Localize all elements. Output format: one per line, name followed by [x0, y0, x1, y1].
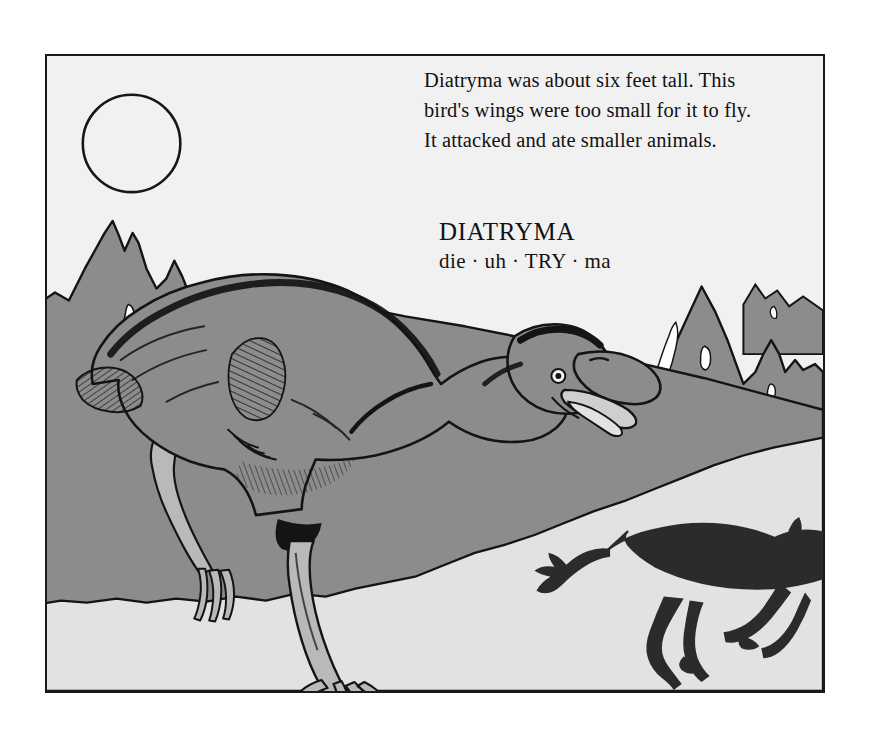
illustration-frame: Diatryma was about six feet tall. This b…: [45, 54, 825, 693]
caption-text: Diatryma was about six feet tall. This b…: [424, 65, 824, 155]
species-name: DIATRYMA: [439, 217, 769, 247]
pronunciation-guide: die · uh · TRY · ma: [439, 247, 769, 276]
right-mountain-snow-small: [700, 346, 710, 370]
bird-back-foot: [194, 569, 234, 622]
bird-eye-pupil: [555, 373, 561, 379]
species-label-block: DIATRYMA die · uh · TRY · ma: [439, 217, 769, 276]
bird-wing-hatching: [228, 338, 285, 420]
illustration-page: Diatryma was about six feet tall. This b…: [0, 0, 879, 745]
far-mountain-snow: [770, 306, 777, 318]
